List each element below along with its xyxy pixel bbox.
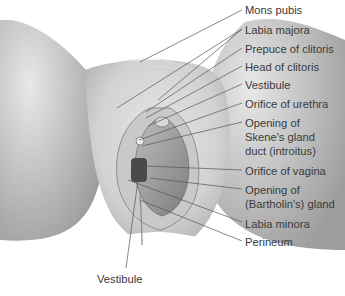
label-perineum: Perineum — [245, 236, 293, 249]
label-vestibule: Vestibule — [245, 79, 290, 92]
label-skene-line2: Skene's gland — [245, 131, 315, 144]
label-bartholin-line1: Opening of — [245, 184, 300, 197]
label-orifice-vagina: Orifice of vagina — [245, 165, 326, 178]
label-prepuce-clitoris: Prepuce of clitoris — [245, 43, 334, 56]
label-labia-minora: Labia minora — [245, 218, 310, 231]
urethra — [136, 137, 144, 145]
label-skene-line1: Opening of — [245, 117, 300, 130]
label-mons-pubis: Mons pubis — [245, 4, 302, 17]
label-labia-majora: Labia majora — [245, 24, 310, 37]
vaginal-orifice — [131, 158, 147, 182]
left-thigh — [0, 20, 100, 241]
label-head-clitoris: Head of clitoris — [245, 61, 319, 74]
label-bartholin-line2: (Bartholin's) gland — [245, 198, 335, 211]
label-orifice-urethra: Orifice of urethra — [245, 98, 328, 111]
label-skene-line3: duct (introitus) — [245, 145, 316, 158]
label-vestibule-bottom: Vestibule — [97, 273, 142, 285]
